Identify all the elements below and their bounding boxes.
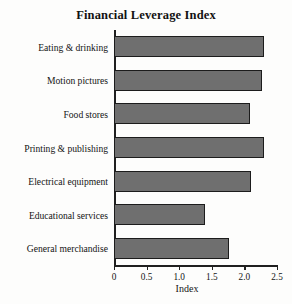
category-label: Electrical equipment <box>28 176 108 187</box>
x-tick-mark <box>212 265 213 270</box>
chart-title: Financial Leverage Index <box>0 8 292 23</box>
category-label: Motion pictures <box>47 75 108 86</box>
x-tick-mark <box>277 265 278 270</box>
x-tick-label: 0 <box>112 272 117 282</box>
x-tick-label: 1.5 <box>206 272 218 282</box>
bar <box>114 103 250 124</box>
bar <box>114 171 251 192</box>
plot-area: 00.51.01.52.02.5 <box>114 30 277 265</box>
category-label: Eating & drinking <box>38 41 108 52</box>
x-tick-mark <box>244 265 245 270</box>
x-tick-label: 2.0 <box>239 272 251 282</box>
x-tick-mark <box>114 265 115 270</box>
category-label: Printing & publishing <box>24 142 108 153</box>
chart-container: Financial Leverage Index Eating & drinki… <box>0 0 292 304</box>
x-axis-title: Index <box>0 283 292 294</box>
x-tick-mark <box>147 265 148 270</box>
bar <box>114 204 205 225</box>
bar <box>114 70 262 91</box>
x-tick-mark <box>179 265 180 270</box>
x-tick-label: 0.5 <box>141 272 153 282</box>
bar <box>114 238 229 259</box>
x-axis-line <box>114 265 277 267</box>
x-axis-title-text: Index <box>176 283 199 294</box>
x-tick-label: 2.5 <box>271 272 283 282</box>
x-tick-label: 1.0 <box>173 272 185 282</box>
bar <box>114 36 264 57</box>
category-label: Food stores <box>63 108 108 119</box>
category-label: Educational services <box>29 209 108 220</box>
category-label: General merchandise <box>27 243 108 254</box>
bar <box>114 137 264 158</box>
category-axis-labels: Eating & drinkingMotion picturesFood sto… <box>0 30 114 265</box>
